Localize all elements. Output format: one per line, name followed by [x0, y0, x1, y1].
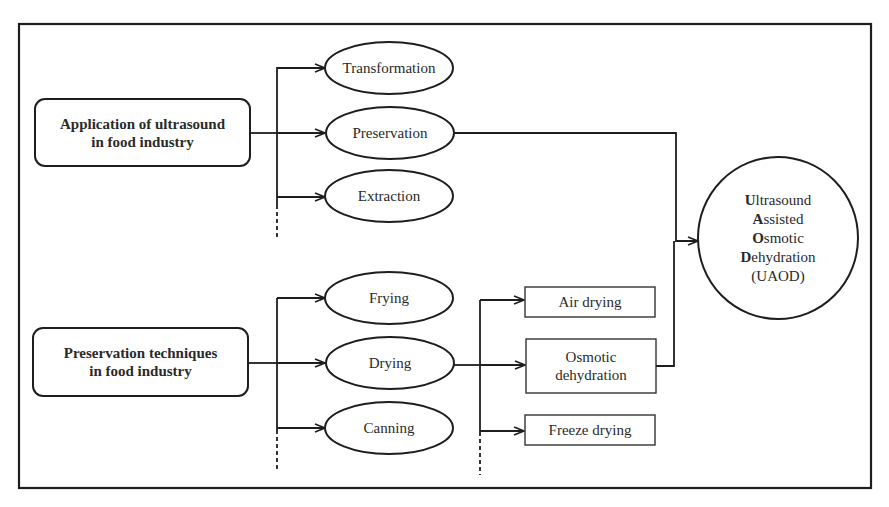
- label-frying: Frying: [325, 288, 453, 308]
- label-line: in food industry: [89, 362, 192, 380]
- label-canning: Canning: [325, 418, 453, 438]
- label-transformation: Transformation: [325, 58, 453, 78]
- label-drying: Drying: [326, 353, 454, 373]
- label-line: Osmotic: [566, 348, 617, 366]
- source-label-preservation: Preservation techniques in food industry: [33, 328, 248, 396]
- label-line: Preservation techniques: [64, 344, 217, 362]
- label-line: dehydration: [555, 366, 627, 384]
- uaod-line: Osmotic: [752, 229, 804, 248]
- uaod-abbreviation: (UAOD): [751, 267, 804, 286]
- label-line: in food industry: [91, 133, 194, 151]
- connector-osmotic-to-uaod: [656, 241, 674, 366]
- label-osmotic-dehydration: Osmotic dehydration: [526, 339, 656, 393]
- label-freeze-drying: Freeze drying: [525, 415, 655, 445]
- connector-preservation-to-uaod: [454, 133, 698, 241]
- uaod-line: Ultrasound: [745, 191, 812, 210]
- label-line: Application of ultrasound: [60, 115, 225, 133]
- label-preservation: Preservation: [326, 123, 454, 143]
- label-uaod: Ultrasound Assisted Osmotic Dehydration …: [698, 190, 858, 286]
- label-air-drying: Air drying: [525, 287, 655, 317]
- source-label-ultrasound: Application of ultrasound in food indust…: [35, 99, 250, 166]
- uaod-line: Assisted: [753, 210, 804, 229]
- uaod-line: Dehydration: [741, 248, 816, 267]
- label-extraction: Extraction: [325, 186, 453, 206]
